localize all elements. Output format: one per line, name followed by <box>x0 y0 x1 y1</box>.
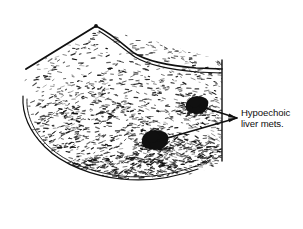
annotation-label: Hypoechoic liver mets. <box>241 107 301 129</box>
arrow-to-upper-lesion-head <box>228 113 237 118</box>
sector-lower-left-boundary <box>23 96 198 180</box>
sector-top-boundary <box>96 26 222 69</box>
annotation-label-line1: Hypoechoic <box>241 107 301 118</box>
arrow-to-lower-lesion-head <box>228 118 237 122</box>
annotation-label-line2: liver mets. <box>241 118 301 129</box>
ultrasound-figure: Hypoechoic liver mets. <box>0 0 303 229</box>
sector-apex-marker <box>94 24 98 28</box>
